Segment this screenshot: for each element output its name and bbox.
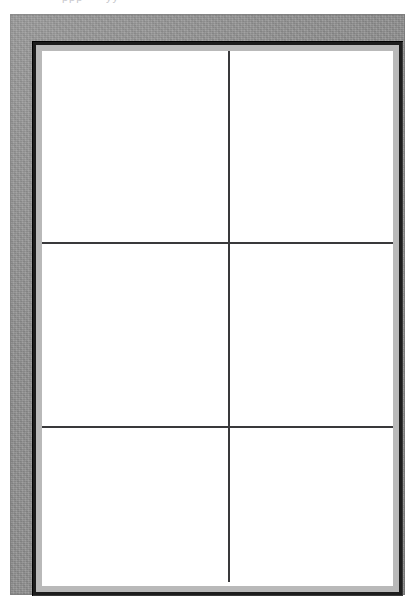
clipped-caption-remnants: ppp yy [0, 0, 416, 7]
grid-cell-r3-c2[interactable] [228, 426, 393, 586]
screenshot-canvas: ppp yy [0, 0, 416, 610]
grid-cell-r2-c1[interactable] [42, 242, 228, 426]
grid-cell-r3-c1[interactable] [42, 426, 228, 586]
grid-cell-r1-c1[interactable] [42, 51, 228, 242]
grid-cell-r1-c2[interactable] [228, 51, 393, 242]
horizontal-divider-2 [42, 426, 393, 428]
caption-remnant-right: yy [106, 0, 119, 3]
horizontal-divider-1 [42, 242, 393, 244]
inner-bevel-border [32, 41, 403, 596]
vertical-divider-row-3 [228, 426, 230, 582]
vertical-divider-row-1 [228, 51, 230, 242]
vertical-divider-row-2 [228, 242, 230, 426]
caption-remnant-left: ppp [62, 0, 83, 3]
outer-mat-frame [10, 14, 405, 595]
grid-sheet [42, 51, 393, 586]
grid-cell-r2-c2[interactable] [228, 242, 393, 426]
bevel-inner-line [36, 45, 399, 592]
